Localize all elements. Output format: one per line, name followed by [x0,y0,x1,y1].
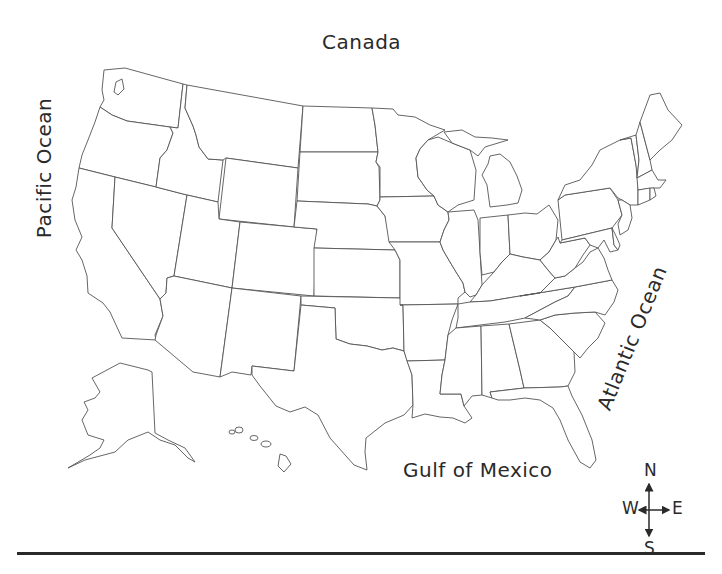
us-outline-map [0,0,722,574]
state-alaska [68,363,195,468]
state-north-dakota [300,106,378,152]
label-canada: Canada [322,30,401,54]
state-south-dakota [297,152,380,206]
state-florida [490,386,596,468]
state-colorado [232,222,317,296]
state-kansas [314,248,400,298]
label-pacific-ocean: Pacific Ocean [32,98,56,238]
bottom-divider [17,552,705,555]
compass-south: S [644,538,655,558]
state-rhode-island [650,188,656,200]
state-arizona [155,276,232,377]
state-hawaii [229,427,291,472]
label-gulf-of-mexico: Gulf of Mexico [403,458,553,482]
compass-east: E [672,498,683,518]
state-connecticut [638,188,650,205]
state-wyoming [219,158,298,227]
compass-west: W [622,498,639,518]
state-new-mexico [220,288,301,377]
compass-north: N [644,460,657,480]
